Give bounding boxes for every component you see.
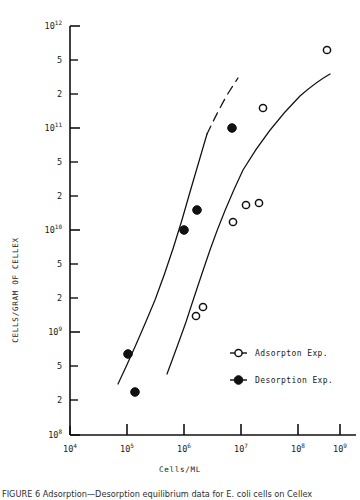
x-axis-title: Cells/ML (159, 465, 201, 474)
x-tick-label: 10 (120, 444, 130, 454)
x-tick-label: 10 (333, 444, 343, 454)
adsorption-fit-curve (167, 74, 330, 374)
y-tick-label: 5 (57, 55, 62, 65)
log-log-scatter-chart: 1012 5 2 1011 5 2 1010 5 2 109 5 2 108 (0, 0, 360, 500)
svg-text:1010: 1010 (45, 223, 63, 235)
legend-entry-desorption: Desorption Exp. (230, 376, 333, 385)
y-tick-label: 5 (57, 361, 62, 371)
x-tick-label: 10 (291, 444, 301, 454)
y-tick-label: 2 (57, 293, 62, 303)
data-point (255, 199, 262, 206)
data-point (180, 226, 189, 235)
x-tick-exponent: 8 (301, 442, 305, 449)
legend-label: Desorption Exp. (255, 376, 333, 385)
figure-caption: FIGURE 6 Adsorption—Desorption equilibri… (0, 488, 360, 500)
x-tick-label: 10 (177, 444, 187, 454)
desorption-series-points (124, 124, 237, 397)
filled-circle-icon (234, 376, 243, 385)
x-tick-exponent: 7 (244, 442, 248, 449)
svg-text:108: 108 (48, 428, 62, 440)
data-point (124, 350, 133, 359)
figure-caption-text: FIGURE 6 Adsorption—Desorption equilibri… (0, 488, 360, 500)
y-axis-title: CELLS/GRAM OF CELLEX (11, 237, 20, 342)
data-point (229, 218, 236, 225)
svg-text:1011: 1011 (45, 121, 63, 133)
chart-legend: Adsorpton Exp. Desorption Exp. (230, 349, 333, 385)
axis-frame (70, 26, 356, 435)
data-point (192, 312, 199, 319)
data-point (228, 124, 237, 133)
y-tick-label: 10 (48, 430, 58, 440)
y-tick-label: 10 (45, 21, 55, 31)
y-tick-label: 2 (57, 191, 62, 201)
y-tick-exponent: 10 (55, 223, 63, 230)
x-tick-exponent: 6 (187, 442, 191, 449)
figure-container: 1012 5 2 1011 5 2 1010 5 2 109 5 2 108 (0, 0, 360, 500)
y-tick-exponent: 9 (58, 325, 62, 332)
svg-text:107: 107 (234, 442, 248, 454)
y-tick-label: 2 (57, 89, 62, 99)
svg-text:109: 109 (48, 325, 62, 337)
y-tick-exponent: 12 (55, 19, 63, 26)
y-tick-label: 10 (45, 123, 55, 133)
open-circle-icon (235, 349, 242, 356)
data-point (199, 303, 206, 310)
x-tick-exponent: 5 (130, 442, 134, 449)
svg-text:105: 105 (120, 442, 134, 454)
y-tick-label: 5 (57, 157, 62, 167)
y-axis-tick-labels: 1012 5 2 1011 5 2 1010 5 2 109 5 2 108 (45, 19, 63, 440)
x-tick-label: 10 (63, 444, 73, 454)
y-tick-label: 10 (48, 327, 58, 337)
svg-text:106: 106 (177, 442, 191, 454)
x-axis-tick-labels: 104 105 106 107 108 109 (63, 442, 347, 454)
y-tick-label: 5 (57, 259, 62, 269)
svg-text:108: 108 (291, 442, 305, 454)
data-point (193, 206, 202, 215)
y-tick-exponent: 8 (58, 428, 62, 435)
svg-text:104: 104 (63, 442, 77, 454)
x-tick-exponent: 9 (343, 442, 347, 449)
y-tick-exponent: 11 (55, 121, 63, 128)
data-point (259, 104, 266, 111)
data-point (323, 46, 330, 53)
x-axis-ticks (70, 424, 340, 435)
svg-text:109: 109 (333, 442, 347, 454)
y-tick-label: 10 (45, 225, 55, 235)
legend-label: Adsorpton Exp. (255, 349, 328, 358)
legend-entry-adsorption: Adsorpton Exp. (230, 349, 328, 358)
data-point (242, 201, 249, 208)
svg-text:1012: 1012 (45, 19, 63, 31)
desorption-fit-curve (118, 134, 207, 384)
data-point (131, 388, 140, 397)
x-tick-exponent: 4 (73, 442, 77, 449)
x-tick-label: 10 (234, 444, 244, 454)
y-tick-label: 2 (57, 395, 62, 405)
y-axis-ticks (70, 26, 80, 435)
